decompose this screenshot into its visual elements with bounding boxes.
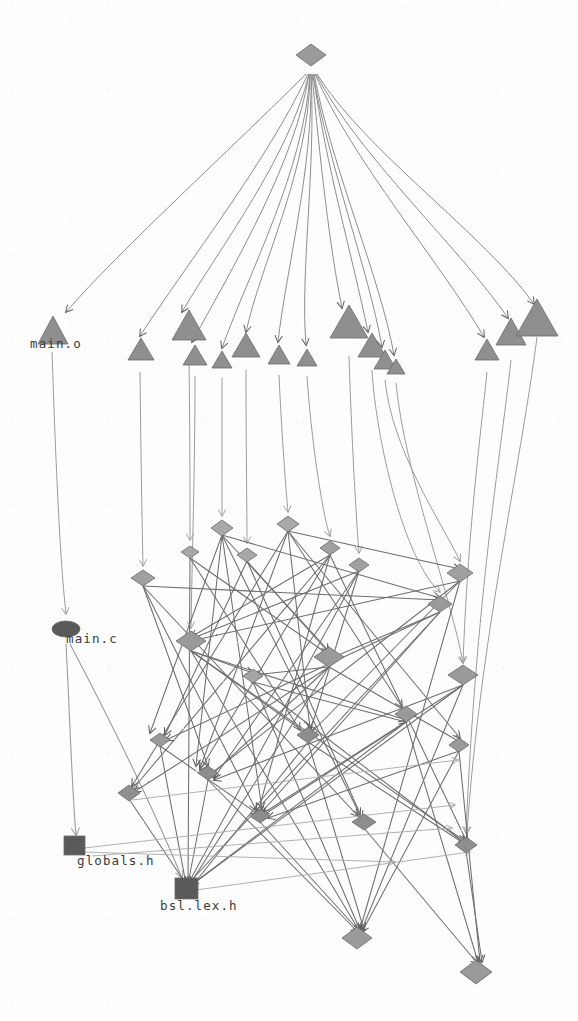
node-diamond [342, 927, 372, 949]
label-globals-h: globals.h [77, 853, 155, 868]
node-triangle [268, 345, 290, 364]
node-diamond [448, 665, 478, 685]
root-fanout-edges [66, 74, 534, 355]
node-diamond [277, 516, 299, 532]
node-bsl-lex-h [175, 878, 198, 899]
node-diamond [314, 647, 344, 667]
node-diamond [131, 570, 155, 586]
node-triangle [475, 339, 499, 360]
node-triangle [212, 351, 232, 368]
node-diamond [211, 520, 233, 536]
label-bsl-lex-h: bsl.lex.h [160, 898, 238, 913]
label-main-o: main.o [30, 336, 82, 351]
node-triangle [183, 345, 207, 365]
node-diamond [237, 548, 257, 562]
node-triangle [330, 305, 368, 338]
dependency-graph-canvas: main.o main.c globals.h bsl.lex.h [0, 0, 578, 1021]
node-triangle [297, 349, 317, 366]
node-diamond [460, 960, 492, 984]
node-triangle [516, 299, 558, 336]
node-diamond [349, 558, 369, 572]
secondary-mesh-edges [84, 760, 470, 890]
node-diamond [181, 546, 199, 558]
node-root [296, 44, 326, 66]
node-diamond [150, 733, 170, 747]
node-triangle [232, 333, 260, 357]
node-triangle [128, 338, 154, 360]
graph-nodes [38, 44, 558, 984]
label-main-c: main.c [66, 631, 118, 646]
node-diamond [449, 738, 469, 752]
node-diamond [320, 541, 340, 555]
node-diamond [118, 785, 140, 801]
